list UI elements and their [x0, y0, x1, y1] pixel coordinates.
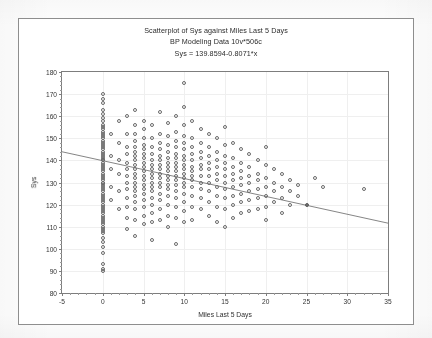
x-axis-minor-tick — [274, 293, 275, 295]
scatter-point — [207, 154, 211, 158]
scatter-point — [215, 165, 219, 169]
scatter-point — [280, 185, 284, 189]
scatter-point — [231, 203, 235, 207]
scatter-point — [133, 218, 137, 222]
scatter-point — [142, 174, 146, 178]
scatter-point — [247, 198, 251, 202]
scatter-point — [158, 163, 162, 167]
y-axis-minor-tick — [60, 262, 62, 263]
scatter-point — [207, 145, 211, 149]
scatter-point — [133, 154, 137, 158]
y-axis-minor-tick — [60, 174, 62, 175]
scatter-point — [182, 141, 186, 145]
scatter-point — [190, 158, 194, 162]
scatter-point — [166, 194, 170, 198]
scatter-point — [199, 127, 203, 131]
y-axis-tick-label: 110 — [46, 223, 57, 230]
y-axis-tick — [59, 205, 62, 206]
scatter-point — [174, 196, 178, 200]
scatter-point — [223, 161, 227, 165]
x-axis-minor-tick — [201, 293, 202, 295]
scatter-point — [199, 181, 203, 185]
y-axis-tick-label: 180 — [46, 69, 57, 76]
scatter-point — [133, 167, 137, 171]
x-axis-minor-tick — [86, 293, 87, 295]
y-axis-minor-tick — [60, 165, 62, 166]
scatter-point — [239, 161, 243, 165]
scatter-point — [158, 158, 162, 162]
chart-subtitle: BP Modeling Data 10v*506c — [19, 36, 413, 47]
scatter-point — [190, 152, 194, 156]
scatter-point — [101, 97, 105, 101]
scatter-point — [190, 145, 194, 149]
scatter-point — [158, 147, 162, 151]
scatter-point — [280, 196, 284, 200]
scatter-point — [174, 130, 178, 134]
scatter-point — [288, 203, 292, 207]
x-axis-minor-tick — [372, 293, 373, 295]
scatter-point — [133, 163, 137, 167]
scatter-point — [182, 134, 186, 138]
scatter-point — [264, 194, 268, 198]
scatter-point — [174, 169, 178, 173]
x-axis-minor-tick — [241, 293, 242, 295]
y-axis-tick-label: 130 — [46, 179, 57, 186]
scatter-point — [101, 101, 105, 105]
y-axis-minor-tick — [60, 196, 62, 197]
scatter-point — [142, 187, 146, 191]
x-axis-minor-tick — [298, 293, 299, 295]
scatter-point — [215, 205, 219, 209]
scatter-point — [182, 154, 186, 158]
scatter-point — [231, 178, 235, 182]
scatter-point — [101, 240, 105, 244]
scatter-point — [239, 192, 243, 196]
scatter-point — [264, 185, 268, 189]
scatter-point — [150, 176, 154, 180]
y-axis-minor-tick — [60, 187, 62, 188]
scatter-point — [321, 185, 325, 189]
scatter-point — [158, 110, 162, 114]
scatter-point — [256, 172, 260, 176]
scatter-point — [150, 172, 154, 176]
scatter-point — [133, 123, 137, 127]
scatter-point — [101, 231, 105, 235]
scatter-point — [190, 165, 194, 169]
scatter-point — [182, 123, 186, 127]
scatter-point — [182, 172, 186, 176]
scatter-point — [142, 156, 146, 160]
y-axis-minor-tick — [60, 156, 62, 157]
scatter-point — [207, 174, 211, 178]
x-axis-minor-tick — [135, 293, 136, 295]
scatter-point — [158, 218, 162, 222]
x-axis-minor-tick — [290, 293, 291, 295]
y-axis-minor-tick — [60, 103, 62, 104]
scatter-point — [182, 181, 186, 185]
y-axis-tick-label: 160 — [46, 113, 57, 120]
scatter-point — [207, 200, 211, 204]
scatter-point — [182, 158, 186, 162]
x-axis-minor-tick — [249, 293, 250, 295]
scatter-point — [223, 181, 227, 185]
scatter-point — [231, 165, 235, 169]
scatter-point — [150, 238, 154, 242]
scatter-point — [142, 147, 146, 151]
scatter-point — [182, 176, 186, 180]
scatter-point — [264, 218, 268, 222]
scatter-point — [247, 152, 251, 156]
y-axis-minor-tick — [60, 121, 62, 122]
y-axis-minor-tick — [60, 200, 62, 201]
scatter-point — [231, 141, 235, 145]
scatter-point — [296, 183, 300, 187]
x-axis-tick-label: 25 — [303, 298, 310, 305]
scatter-point — [264, 163, 268, 167]
x-axis-tick — [62, 293, 63, 296]
y-axis-minor-tick — [60, 222, 62, 223]
x-axis-title: Miles Last 5 Days — [61, 311, 389, 318]
scatter-point — [142, 136, 146, 140]
x-axis-minor-tick — [95, 293, 96, 295]
y-axis-tick — [59, 160, 62, 161]
scatter-point — [215, 150, 219, 154]
y-axis-tick — [59, 72, 62, 73]
y-axis-minor-tick — [60, 236, 62, 237]
scatter-point — [142, 198, 146, 202]
